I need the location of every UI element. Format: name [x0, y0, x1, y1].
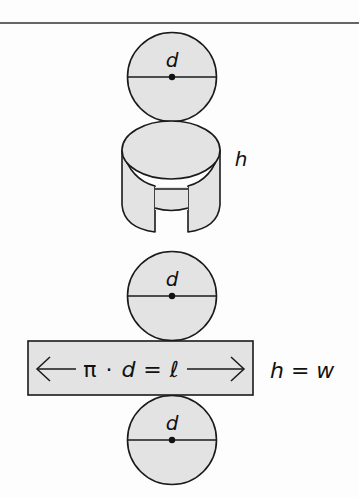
- pi-symbol: π: [83, 357, 96, 382]
- center-point-icon: [169, 74, 175, 80]
- height-width-label: h = w: [270, 358, 335, 383]
- diameter-label: d: [166, 411, 179, 435]
- bottom-circle: d: [128, 396, 217, 485]
- unrolled-rectangle: π · d = ℓ: [28, 341, 253, 395]
- middle-circle: d: [128, 252, 217, 341]
- height-label: h: [235, 147, 248, 171]
- l-symbol: ℓ: [169, 357, 179, 382]
- top-circle: d: [128, 33, 217, 122]
- center-point-icon: [169, 437, 175, 443]
- open-cylinder: h: [122, 121, 247, 232]
- cylinder-net-diagram: d h d d: [0, 0, 359, 497]
- circumference-formula: π · d = ℓ: [83, 357, 179, 382]
- dot-symbol: ·: [105, 357, 112, 382]
- d-symbol: d: [121, 357, 136, 382]
- diameter-label: d: [166, 267, 179, 291]
- equals-symbol: =: [143, 357, 161, 382]
- cylinder-top-ellipse: [122, 121, 220, 179]
- diameter-label: d: [166, 48, 179, 72]
- center-point-icon: [169, 293, 175, 299]
